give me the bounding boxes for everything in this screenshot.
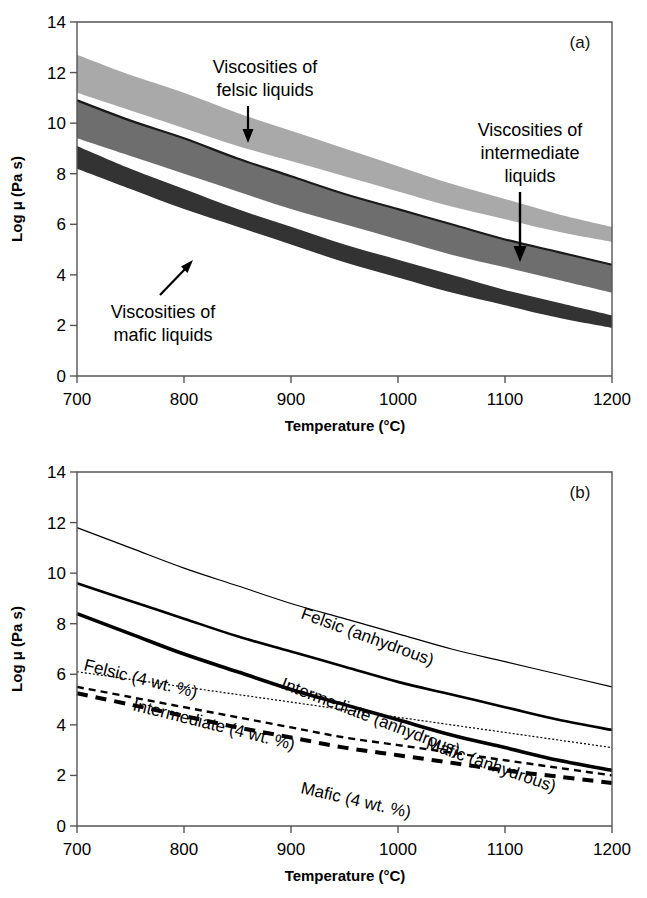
y-tick-label: 6 — [57, 665, 66, 684]
y-axis-title-b: Log μ (Pa s) — [8, 606, 25, 692]
x-tick-label: 1200 — [593, 390, 631, 409]
y-tick-label: 0 — [57, 817, 66, 836]
panel-a: 02468101214700800900100011001200 (a) Log… — [0, 0, 647, 448]
y-axis-title-a: Log μ (Pa s) — [8, 156, 25, 242]
x-tick-label: 900 — [277, 840, 305, 859]
y-tick-label: 4 — [57, 266, 66, 285]
panel-b: 02468101214700800900100011001200 (b) Log… — [0, 448, 647, 898]
annotation-intermediate-line3: liquids — [504, 166, 555, 186]
y-tick-label: 10 — [47, 564, 66, 583]
y-tick-label: 14 — [47, 13, 66, 32]
x-tick-label: 800 — [170, 840, 198, 859]
y-tick-label: 10 — [47, 114, 66, 133]
annotation-felsic-line1: Viscosities of — [213, 57, 319, 77]
annotation-intermediate-line2: intermediate — [480, 143, 579, 163]
annotation-felsic-line2: felsic liquids — [216, 80, 313, 100]
y-tick-label: 8 — [57, 615, 66, 634]
y-tick-label: 4 — [57, 716, 66, 735]
x-tick-label: 1200 — [593, 840, 631, 859]
y-tick-label: 12 — [47, 514, 66, 533]
panel-tag-a: (a) — [570, 33, 591, 52]
panel-b-chart: 02468101214700800900100011001200 (b) Log… — [0, 448, 647, 898]
y-tick-label: 2 — [57, 316, 66, 335]
x-axis-title-a: Temperature (°C) — [285, 417, 406, 434]
annotation-mafic-line1: Viscosities of — [111, 302, 217, 322]
x-tick-label: 1100 — [487, 390, 524, 409]
x-tick-label: 1000 — [379, 390, 417, 409]
x-tick-label: 800 — [170, 390, 198, 409]
annotation-mafic-line2: mafic liquids — [113, 325, 212, 345]
panel-tag-b: (b) — [570, 483, 591, 502]
figure-container: 02468101214700800900100011001200 (a) Log… — [0, 0, 647, 898]
y-tick-label: 6 — [57, 215, 66, 234]
x-tick-label: 700 — [63, 840, 91, 859]
panel-a-chart: 02468101214700800900100011001200 (a) Log… — [0, 0, 647, 448]
x-tick-label: 700 — [63, 390, 91, 409]
x-tick-label: 1100 — [487, 840, 524, 859]
y-tick-label: 12 — [47, 64, 66, 83]
y-tick-label: 2 — [57, 766, 66, 785]
x-tick-label: 900 — [277, 390, 305, 409]
annotation-intermediate-line1: Viscosities of — [478, 120, 584, 140]
y-tick-label: 14 — [47, 463, 66, 482]
y-tick-label: 0 — [57, 367, 66, 386]
x-axis-title-b: Temperature (°C) — [285, 867, 406, 884]
x-tick-label: 1000 — [379, 840, 417, 859]
y-tick-label: 8 — [57, 165, 66, 184]
